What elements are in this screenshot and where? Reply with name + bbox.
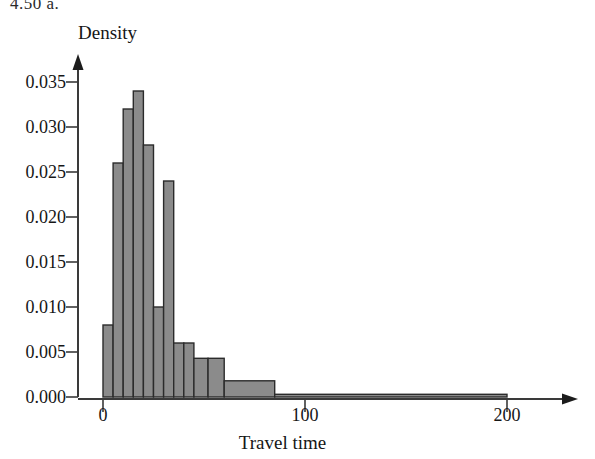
y-tick-labels: 0.0000.0050.0100.0150.0200.0250.0300.035 [0, 0, 66, 459]
histogram-bar [154, 307, 164, 397]
histogram-bar [103, 325, 113, 397]
histogram-bar [224, 381, 275, 397]
y-tick-label: 0.015 [0, 252, 66, 273]
plot-area [0, 0, 595, 459]
x-axis-title: Travel time [0, 432, 595, 454]
y-ticks-group [66, 82, 78, 397]
histogram-bar [174, 343, 184, 397]
histogram-bar [113, 163, 123, 397]
x-tick-label: 0 [99, 405, 108, 426]
histogram-bar [164, 181, 174, 397]
y-tick-label: 0.035 [0, 72, 66, 93]
histogram-bar [208, 358, 224, 397]
histogram-bar [275, 394, 507, 397]
x-axis-arrow-icon [562, 394, 578, 405]
x-tick-label: 200 [494, 405, 521, 426]
y-tick-label: 0.020 [0, 207, 66, 228]
histogram-bar [123, 109, 133, 397]
histogram-bar [133, 91, 143, 397]
bars-group [103, 91, 507, 397]
histogram-figure: 4.50 a. Density 0.0000.0050.0100.0150.02… [0, 0, 595, 459]
y-tick-label: 0.025 [0, 162, 66, 183]
histogram-bar [184, 343, 194, 397]
x-tick-label: 100 [292, 405, 319, 426]
y-tick-label: 0.030 [0, 117, 66, 138]
y-tick-label: 0.010 [0, 297, 66, 318]
histogram-bar [143, 145, 153, 397]
histogram-bar [194, 358, 208, 397]
y-tick-label: 0.005 [0, 342, 66, 363]
y-axis-arrow-icon [73, 54, 84, 70]
y-tick-label: 0.000 [0, 387, 66, 408]
x-axis-title-text: Travel time [239, 432, 326, 453]
